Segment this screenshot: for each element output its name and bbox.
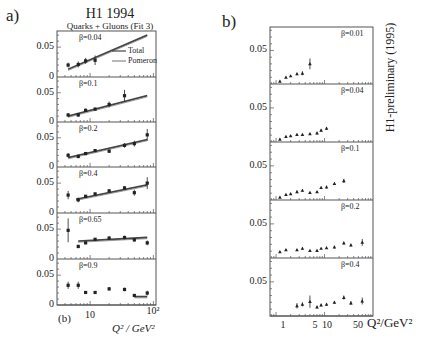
data-point (333, 301, 337, 304)
data-point (67, 284, 70, 287)
fit-line-pomeron (76, 186, 147, 200)
data-point (349, 301, 353, 304)
data-point (146, 291, 149, 294)
data-point (84, 195, 87, 198)
subplot-β=0.04 (57, 35, 156, 77)
data-point (284, 135, 288, 138)
subplot-β=0.1 (270, 145, 373, 200)
data-point (94, 108, 97, 111)
subplot-β=0.4 (270, 261, 373, 316)
subplot-β=0.4 (57, 171, 156, 213)
data-point (278, 80, 282, 83)
data-point (319, 247, 323, 250)
data-point (319, 186, 323, 189)
data-point (94, 149, 97, 152)
data-point (342, 241, 346, 244)
data-point (67, 154, 70, 157)
data-point (301, 133, 305, 136)
data-point (146, 241, 149, 244)
data-point (289, 134, 293, 137)
data-point (146, 182, 149, 185)
data-point (342, 296, 346, 299)
data-point (308, 132, 312, 135)
data-point (108, 287, 111, 290)
fit-line-pomeron (68, 97, 147, 117)
data-point (94, 238, 97, 241)
chart-a (57, 31, 156, 305)
data-point (84, 152, 87, 155)
data-point (123, 186, 126, 189)
data-point (84, 291, 87, 294)
data-point (333, 182, 337, 185)
data-point (108, 103, 111, 106)
data-point (325, 303, 329, 306)
data-point (67, 63, 70, 66)
data-point (146, 133, 149, 136)
subplot-β=0.65 (57, 217, 156, 259)
data-point (295, 72, 299, 75)
data-point (360, 299, 364, 302)
data-point (342, 179, 346, 182)
data-point (278, 195, 282, 198)
data-point (319, 303, 323, 306)
data-point (325, 127, 329, 130)
data-point (133, 238, 136, 241)
data-point (349, 243, 353, 246)
chart-frame (270, 27, 373, 316)
data-point (301, 247, 305, 250)
data-point (278, 137, 282, 140)
data-point (315, 305, 319, 308)
data-point (284, 248, 288, 251)
data-point (133, 142, 136, 145)
data-point (94, 59, 97, 62)
data-point (84, 241, 87, 244)
data-point (77, 245, 80, 248)
data-point (77, 113, 80, 116)
data-point (284, 75, 288, 78)
data-point (278, 250, 282, 253)
plot-canvas (0, 0, 427, 349)
subplot-β=0.2 (270, 203, 373, 258)
data-point (77, 284, 80, 287)
data-point (325, 246, 329, 249)
data-point (108, 236, 111, 239)
subplot-β=0.01 (270, 30, 373, 84)
data-point (308, 191, 312, 194)
data-point (315, 131, 319, 134)
data-point (308, 62, 312, 65)
data-point (123, 236, 126, 239)
data-point (94, 291, 97, 294)
data-point (108, 150, 111, 153)
data-point (295, 133, 299, 136)
data-point (94, 192, 97, 195)
data-point (301, 189, 305, 192)
data-point (308, 249, 312, 252)
data-point (360, 241, 364, 244)
data-point (67, 193, 70, 196)
data-point (325, 185, 329, 188)
data-point (84, 59, 87, 62)
data-point (295, 304, 299, 307)
subplot-β=0.9 (57, 263, 156, 305)
data-point (67, 229, 70, 232)
data-point (67, 113, 70, 116)
data-point (77, 198, 80, 201)
chart-frame (57, 31, 156, 305)
data-point (333, 245, 337, 248)
subplot-β=0.1 (57, 81, 156, 122)
data-point (77, 155, 80, 158)
data-point (289, 192, 293, 195)
data-point (315, 190, 319, 193)
data-point (319, 129, 323, 132)
data-point (301, 303, 305, 306)
data-point (289, 74, 293, 77)
data-point (123, 288, 126, 291)
fit-line-total (68, 35, 147, 69)
subplot-β=0.2 (57, 126, 156, 167)
data-point (295, 190, 299, 193)
data-point (108, 189, 111, 192)
fit-line-pomeron (68, 36, 147, 70)
data-point (77, 63, 80, 66)
data-point (123, 144, 126, 147)
data-point (123, 94, 126, 97)
